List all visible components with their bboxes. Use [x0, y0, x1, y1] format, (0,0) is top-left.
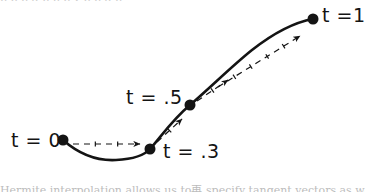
knot-point	[145, 144, 156, 155]
tangent-vector-arrows	[73, 36, 300, 147]
spline-curve	[63, 19, 313, 160]
knot-point	[308, 14, 319, 25]
tangent-tick	[211, 88, 214, 92]
spline-figure: p p p q p p p y p p q p t = 0 t = .3 t =…	[0, 0, 365, 192]
knot-point	[185, 100, 196, 111]
tangent-tick	[233, 75, 236, 79]
label-t-0: t = 0	[11, 131, 61, 150]
label-t-point-3: t = .3	[163, 142, 220, 161]
clipped-text-bottom: Hermite interpolation allows us to再 spec…	[0, 181, 365, 192]
label-t-1: t =1	[322, 6, 365, 25]
label-t-point-5: t = .5	[126, 88, 183, 107]
knot-markers	[58, 14, 319, 155]
